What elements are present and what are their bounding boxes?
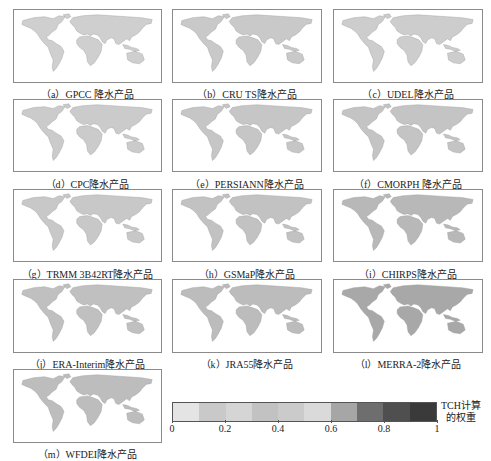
world-map-i [334,190,482,261]
map-frame-l [333,279,483,353]
colorbar [172,402,437,422]
tick-label: 0.8 [378,423,391,434]
colorbar-label-line2: 的权重 [441,412,481,424]
colorbar-segment [331,403,357,421]
map-frame-i [333,189,483,262]
tick-label: 0.4 [272,423,285,434]
colorbar-segment [357,403,383,421]
colorbar-segment [410,403,436,421]
world-map-f [334,100,482,171]
map-frame-j [13,279,162,353]
colorbar-label: TCH计算 的权重 [441,400,481,424]
world-map-l [334,280,482,352]
caption-k: （k）JRA55降水产品 [172,356,322,371]
map-frame-c [333,9,483,83]
world-map-b [173,10,321,82]
colorbar-segment [252,403,278,421]
colorbar-label-line1: TCH计算 [441,400,481,412]
world-map-m [14,370,161,442]
colorbar-segment [383,403,409,421]
map-frame-g [13,189,162,262]
world-map-k [173,280,321,352]
tick-label: 0 [170,423,175,434]
colorbar-segment [304,403,330,421]
map-frame-h [172,189,322,262]
tick-label: 0.2 [219,423,232,434]
colorbar-segment [173,403,199,421]
map-frame-k [172,279,322,353]
world-map-a [14,10,161,82]
world-map-c [334,10,482,82]
world-map-g [14,190,161,261]
map-frame-b [172,9,322,83]
map-frame-d [13,99,162,172]
world-map-d [14,100,161,171]
world-map-e [173,100,321,171]
map-frame-a [13,9,162,83]
world-map-j [14,280,161,352]
caption-m: （m）WFDEI降水产品 [13,446,162,461]
map-frame-e [172,99,322,172]
tick-label: 1 [435,423,440,434]
map-frame-m [13,369,162,443]
world-map-h [173,190,321,261]
colorbar-segment [199,403,225,421]
colorbar-segment [226,403,252,421]
colorbar-segment [278,403,304,421]
tick-label: 0.6 [325,423,338,434]
map-frame-f [333,99,483,172]
caption-l: （l）MERRA-2降水产品 [333,356,483,371]
